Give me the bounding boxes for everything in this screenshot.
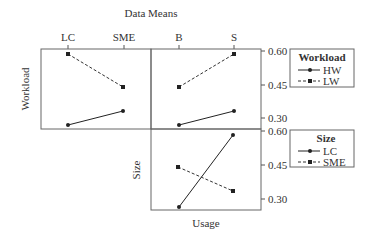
x-label-s: S bbox=[231, 31, 237, 43]
panel-frames bbox=[41, 49, 261, 210]
ytick-top-045: 0.45 bbox=[268, 79, 288, 91]
series-hw-by-size bbox=[66, 109, 125, 127]
legend-sme: SME bbox=[323, 156, 346, 168]
top-ticks bbox=[68, 45, 234, 49]
series-lw-by-usage bbox=[177, 52, 236, 89]
legend-size-title: Size bbox=[317, 132, 336, 144]
circle-marker-icon bbox=[308, 68, 312, 72]
row-label-workload: Workload bbox=[19, 67, 31, 111]
interaction-plot: Data Means LC SME B S Workload Size 0.60 bbox=[0, 0, 374, 246]
right-axis-top bbox=[261, 51, 265, 118]
x-label-sme: SME bbox=[113, 31, 136, 43]
ytick-top-030: 0.30 bbox=[268, 112, 288, 124]
series-lc-by-usage bbox=[177, 133, 235, 209]
series-sme-by-usage bbox=[176, 165, 235, 193]
series-lw-by-size bbox=[66, 52, 125, 89]
legend-size: Size LC SME bbox=[290, 130, 354, 168]
chart-title: Data Means bbox=[125, 7, 178, 19]
legend-workload: Workload HW LW bbox=[290, 49, 354, 87]
ytick-bottom-060: 0.60 bbox=[268, 125, 288, 137]
right-axis-bottom bbox=[261, 131, 265, 199]
square-marker-icon bbox=[308, 160, 312, 164]
ytick-top-060: 0.60 bbox=[268, 45, 288, 57]
circle-marker-icon bbox=[308, 149, 312, 153]
series-hw-by-usage bbox=[177, 109, 236, 127]
legend-lw: LW bbox=[323, 75, 340, 87]
legend-workload-title: Workload bbox=[298, 51, 345, 63]
panel-size-by-usage bbox=[151, 129, 261, 210]
square-marker-icon bbox=[308, 79, 312, 83]
x-label-lc: LC bbox=[61, 31, 75, 43]
x-label-b: B bbox=[175, 31, 182, 43]
ytick-bottom-045: 0.45 bbox=[268, 159, 288, 171]
panel-workload-by-size bbox=[41, 49, 151, 129]
panel-workload-by-usage bbox=[151, 49, 261, 129]
row-label-size: Size bbox=[130, 160, 142, 179]
ytick-bottom-030: 0.30 bbox=[268, 193, 288, 205]
x-axis-label-usage: Usage bbox=[192, 217, 220, 229]
